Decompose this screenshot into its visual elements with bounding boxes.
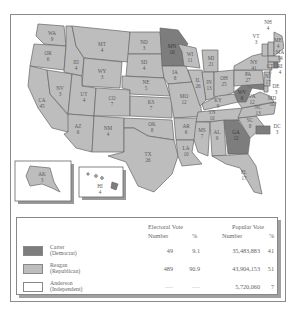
results-table: Electoral Vote Popular Vote Number % Num… bbox=[16, 217, 278, 295]
ev-pct: 9.1 bbox=[180, 247, 200, 254]
table-row-reagan: Reagan (Republican) 489 90.9 43,904,153 … bbox=[17, 261, 277, 277]
svg-text:13: 13 bbox=[255, 110, 261, 116]
svg-text:25: 25 bbox=[221, 81, 227, 87]
table-row-carter: Carter (Democrat) 49 9.1 35,483,883 41 bbox=[17, 243, 277, 259]
pop-number: 35,483,883 bbox=[212, 247, 260, 254]
pop-pct: 41 bbox=[262, 247, 274, 254]
svg-text:3: 3 bbox=[59, 91, 62, 97]
legend-swatch-anderson bbox=[23, 282, 43, 292]
svg-text:6: 6 bbox=[77, 129, 80, 135]
candidate-party: (Democrat) bbox=[50, 250, 77, 256]
header-ev-pct: % bbox=[192, 232, 197, 239]
svg-text:27: 27 bbox=[245, 77, 251, 83]
svg-text:6: 6 bbox=[185, 129, 188, 135]
svg-text:6: 6 bbox=[241, 95, 244, 101]
svg-text:12: 12 bbox=[233, 135, 239, 141]
header-ev-number: Number bbox=[148, 232, 168, 239]
pop-pct: 51 bbox=[262, 265, 274, 272]
svg-text:10: 10 bbox=[209, 115, 215, 121]
header-popular-vote: Popular Vote bbox=[232, 223, 264, 230]
svg-text:8: 8 bbox=[249, 123, 252, 129]
ev-number: ---- bbox=[157, 283, 173, 290]
svg-text:3: 3 bbox=[41, 177, 44, 183]
svg-text:4: 4 bbox=[99, 189, 102, 195]
svg-text:9: 9 bbox=[216, 135, 219, 141]
svg-text:26: 26 bbox=[145, 157, 151, 163]
pop-number: 5,720,060 bbox=[212, 283, 260, 290]
svg-text:5: 5 bbox=[145, 85, 148, 91]
svg-text:4: 4 bbox=[143, 65, 146, 71]
ev-pct: ---- bbox=[180, 283, 200, 290]
svg-text:26: 26 bbox=[195, 83, 201, 89]
ev-pct: 90.9 bbox=[180, 265, 200, 272]
svg-text:21: 21 bbox=[208, 61, 214, 67]
svg-text:4: 4 bbox=[83, 97, 86, 103]
svg-text:12: 12 bbox=[249, 99, 255, 105]
svg-text:45: 45 bbox=[39, 103, 45, 109]
ev-number: 489 bbox=[157, 265, 173, 272]
table-row-anderson: Anderson (Independent) ---- ---- 5,720,0… bbox=[17, 279, 277, 295]
svg-text:17: 17 bbox=[265, 79, 271, 85]
legend-swatch-reagan bbox=[23, 264, 43, 274]
state-de bbox=[264, 86, 268, 92]
svg-text:7: 7 bbox=[111, 101, 114, 107]
svg-text:3: 3 bbox=[276, 129, 279, 135]
state-vt bbox=[262, 44, 268, 56]
svg-text:12: 12 bbox=[181, 99, 187, 105]
svg-text:14: 14 bbox=[277, 55, 283, 61]
svg-text:10: 10 bbox=[269, 101, 275, 107]
svg-text:4: 4 bbox=[279, 69, 282, 75]
pop-number: 43,904,153 bbox=[212, 265, 260, 272]
pop-pct: 7 bbox=[262, 283, 274, 290]
state-nh bbox=[268, 42, 274, 56]
candidate-party: (Independent) bbox=[50, 286, 83, 292]
svg-text:7: 7 bbox=[201, 133, 204, 139]
svg-text:3: 3 bbox=[101, 74, 104, 80]
legend-swatch-carter bbox=[23, 246, 43, 256]
us-electoral-map: WA9 OR6 CA45 NV3 ID4 MT4 WY3 UT4 CO7 AZ6… bbox=[12, 16, 284, 214]
svg-text:9: 9 bbox=[51, 36, 54, 42]
svg-text:13: 13 bbox=[206, 85, 212, 91]
header-pop-number: Number bbox=[222, 232, 242, 239]
candidate-party: (Republican) bbox=[50, 268, 80, 274]
svg-text:4: 4 bbox=[107, 131, 110, 137]
svg-text:11: 11 bbox=[188, 57, 193, 63]
svg-text:10: 10 bbox=[183, 151, 189, 157]
svg-text:3: 3 bbox=[255, 39, 258, 45]
svg-text:4: 4 bbox=[267, 25, 270, 31]
svg-text:17: 17 bbox=[241, 175, 247, 181]
svg-text:6: 6 bbox=[47, 56, 50, 62]
svg-text:8: 8 bbox=[151, 127, 154, 133]
svg-text:41: 41 bbox=[251, 65, 257, 71]
header-pop-pct: % bbox=[269, 232, 274, 239]
state-fl bbox=[212, 154, 262, 194]
svg-text:4: 4 bbox=[101, 47, 104, 53]
svg-text:3: 3 bbox=[143, 45, 146, 51]
header-electoral-vote: Electoral Vote bbox=[148, 223, 183, 230]
svg-text:7: 7 bbox=[150, 105, 153, 111]
svg-text:4: 4 bbox=[75, 65, 78, 71]
svg-text:10: 10 bbox=[169, 49, 175, 55]
state-dc bbox=[256, 126, 270, 134]
svg-text:8: 8 bbox=[174, 75, 177, 81]
svg-text:9: 9 bbox=[217, 103, 220, 109]
ev-number: 49 bbox=[157, 247, 173, 254]
